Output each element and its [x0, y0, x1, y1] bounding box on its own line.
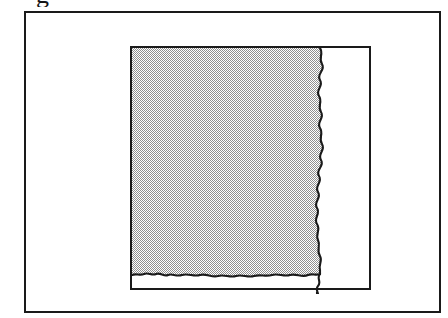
figure-page: g: [0, 0, 448, 318]
outer-figure-frame: [24, 11, 441, 313]
caption-descender-glyph: g: [36, 0, 76, 7]
inner-region-box: [130, 46, 371, 290]
vertical-wavy-boundary-tail: [315, 274, 320, 294]
shaded-region-diagram: [130, 46, 375, 294]
shaded-cluster-area: [132, 48, 323, 277]
